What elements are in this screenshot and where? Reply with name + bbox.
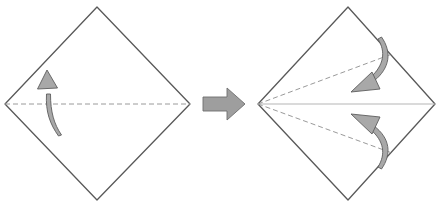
step-transition-arrow xyxy=(203,88,245,120)
origami-diagram xyxy=(0,0,443,209)
origami-illustration-svg xyxy=(0,0,443,209)
panel-after-fold xyxy=(258,7,435,200)
step-arrow-shape xyxy=(203,88,245,120)
panel-before-fold xyxy=(5,7,190,200)
